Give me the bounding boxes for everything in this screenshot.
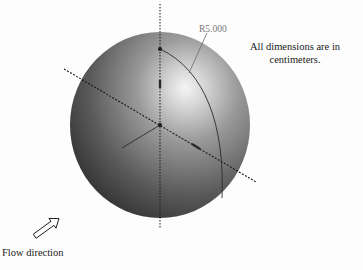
vertical-axis-tick — [159, 80, 161, 88]
top-point-marker — [158, 47, 162, 51]
center-point-marker — [158, 123, 162, 127]
radius-dimension-label: R5.000 — [199, 24, 227, 34]
flow-arrow-icon — [31, 214, 62, 241]
units-note: All dimensions are in centimeters. — [240, 40, 350, 66]
sphere-diagram: R5.000 All dimensions are in centimeters… — [0, 0, 363, 270]
flow-direction-label: Flow direction — [2, 247, 64, 258]
